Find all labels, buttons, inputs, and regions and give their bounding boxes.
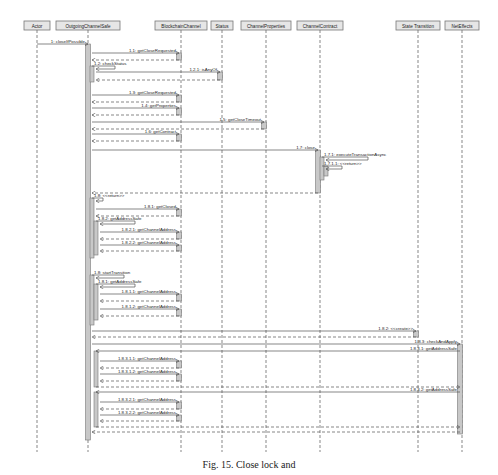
activation-bar <box>90 66 94 82</box>
activation-bar <box>94 221 98 255</box>
activation-bar <box>177 402 182 409</box>
message-label: 1.8.3.1: getAddressSafe <box>410 346 458 351</box>
message-call: 1.8.1.2: getChannelAddress <box>100 304 179 310</box>
lifeline-label: Actor <box>32 24 43 29</box>
activation-bar <box>177 245 182 251</box>
message-label: 1.8: startTransition <box>94 270 131 275</box>
message-self: 1.8: startTransition <box>92 270 131 279</box>
message-self: 1.8.1: getAddressSafe <box>96 279 142 288</box>
activation-bar <box>218 72 223 80</box>
message-call: 1.8.3.1.1: getChannelAddress <box>100 356 179 362</box>
message-label: 1.5: getCloseTimeout <box>219 117 261 122</box>
message-label: 1.7: close <box>296 145 315 150</box>
lifeline-label: ChannelProperties <box>247 24 286 29</box>
message-call: 1.8.2.2: getChannelAddress <box>100 240 179 246</box>
message-call: 1.8.3.2.2: getChannelAddress <box>100 410 179 416</box>
message-call: 1.8.3.1: getAddressSafe <box>96 346 460 352</box>
message-self: 1.8: <<return>> <box>92 193 125 202</box>
sequence-diagram-canvas: ActorOutgoingChannelSafeBlockchainChanne… <box>0 0 498 475</box>
activation-bar <box>177 108 182 115</box>
activation-bar <box>177 361 182 368</box>
message-label: 1.8.1: getClosed <box>144 204 177 209</box>
message-call: 1.8.1.1: getChannelAddress <box>100 289 179 295</box>
activation-bar <box>324 166 328 176</box>
message-self: 1.7.1: executeTransactionAsync <box>322 152 387 161</box>
message-call: 1.8.3: checkAndApply <box>92 339 460 345</box>
message-label: 1.8.3: checkAndApply <box>415 339 458 344</box>
activation-bar <box>177 209 182 216</box>
message-label: 1.8.1.2: getChannelAddress <box>122 304 177 309</box>
activation-bar <box>94 284 98 320</box>
message-label: 1.8.3.1.1: getChannelAddress <box>118 356 177 361</box>
lifeline-actor: Actor <box>24 21 50 452</box>
message-call: 1.3: getCloseRequested <box>92 90 179 96</box>
activation-bar <box>94 392 98 427</box>
lifeline-label: NetEffects <box>451 24 473 29</box>
message-label: 1.2.1: isAnyOf <box>189 67 217 72</box>
lifeline-label: State Transition <box>402 24 434 29</box>
message-call: 1.7: close <box>92 145 318 151</box>
message-label: 1.8: <<return>> <box>94 193 125 198</box>
message-label: 1.8.1: getAddressSafe <box>98 279 142 284</box>
message-call: 1.8.3.2.1: getChannelAddress <box>100 397 179 403</box>
message-label: 1.8.3.2.1: getChannelAddress <box>118 397 177 402</box>
message-label: 1.8.1.1: getChannelAddress <box>122 289 177 294</box>
lifeline-label: ChannelContract <box>303 24 338 29</box>
message-self: 1.8.2: getAddressSafe <box>96 216 142 225</box>
message-label: 1.8.2.2: getChannelAddress <box>122 240 177 245</box>
message-label: 1.6: getContract <box>145 129 177 134</box>
message-label: 1.8.3.2: getAddressSafe <box>410 387 458 392</box>
message-call: 1.8.2: <<create>> <box>92 326 416 332</box>
message-label: 1.8.3.1.2: getChannelAddress <box>118 369 177 374</box>
activation-bar <box>94 351 98 387</box>
message-self: 1.2: checkStatus <box>92 61 127 70</box>
message-label: 1.7.1.1: <<return>> <box>324 161 362 166</box>
message-call: 1.8.3.1.2: getChannelAddress <box>100 369 179 375</box>
activation-bar <box>414 331 419 337</box>
activation-bar <box>262 122 267 129</box>
message-label: 1.4: getProperties <box>141 103 176 108</box>
activation-bar <box>177 232 182 239</box>
message-label: 1.3: getCloseRequested <box>129 90 177 95</box>
message-call: 1.4: getProperties <box>92 103 179 109</box>
message-label: 1.8.2.1: getChannelAddress <box>122 227 177 232</box>
message-label: 1.8.3.2.2: getChannelAddress <box>118 410 177 415</box>
message-label: 1.1: getCloseRequested <box>129 48 177 53</box>
activation-bar <box>177 53 182 60</box>
activation-bar <box>177 294 182 301</box>
activation-bar <box>90 198 94 258</box>
message-label: 1.2: checkStatus <box>94 61 127 66</box>
activation-bar <box>177 95 182 102</box>
message-call: 1: closeIfPossible <box>37 39 88 45</box>
message-label: 1.7.1: executeTransactionAsync <box>324 152 387 157</box>
message-call: 1.8.1: getClosed <box>96 204 179 210</box>
activation-bar <box>177 134 182 141</box>
message-label: 1.8.2: <<create>> <box>378 326 413 331</box>
lifeline-label: OutgoingChannelSafe <box>65 24 111 29</box>
activation-bar <box>177 309 182 316</box>
message-call: 1.1: getCloseRequested <box>92 48 179 54</box>
message-call: 1.6: getContract <box>92 129 179 135</box>
activation-bar <box>177 415 182 421</box>
activation-bar <box>177 374 182 381</box>
lifeline-label: Status <box>215 24 229 29</box>
activation-bar <box>458 344 463 434</box>
activation-bar <box>90 275 94 325</box>
message-call: 1.8.2.1: getChannelAddress <box>100 227 179 233</box>
message-call: 1.5: getCloseTimeout <box>92 117 264 123</box>
sequence-diagram: ActorOutgoingChannelSafeBlockchainChanne… <box>0 0 498 475</box>
message-label: 1.8.2: getAddressSafe <box>98 216 142 221</box>
lifeline-label: BlockchainChannel <box>161 24 200 29</box>
message-label: 1: closeIfPossible <box>51 39 86 44</box>
figure-caption: Fig. 15. Close lock and <box>0 459 498 470</box>
messages: 1: closeIfPossible1.1: getCloseRequested… <box>37 39 460 433</box>
